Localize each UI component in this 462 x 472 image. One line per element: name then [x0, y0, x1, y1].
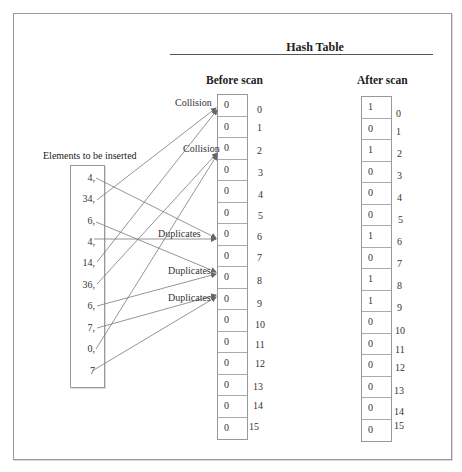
arrow-7b-to-9 — [92, 297, 216, 371]
duplicates-label: Duplicates — [168, 292, 211, 303]
arrow-0-to-2 — [96, 155, 217, 349]
duplicates-label: Duplicates — [158, 228, 201, 239]
duplicates-label: Duplicates — [168, 265, 211, 276]
collision-label: Collision — [175, 97, 212, 108]
collision-label: Collision — [183, 143, 220, 154]
mapping-arrows — [0, 0, 462, 472]
